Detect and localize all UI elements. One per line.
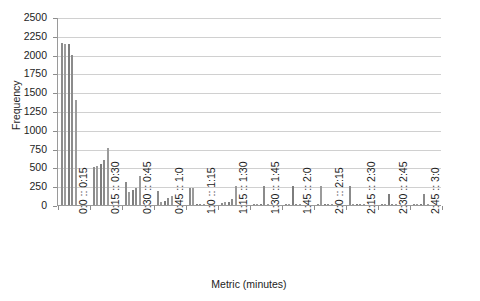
gridline: [58, 93, 441, 94]
bar: [288, 204, 290, 205]
y-tick-label: 500: [5, 161, 47, 173]
gridline: [58, 56, 441, 57]
x-tick-label: 0:0 :: 0:15: [77, 167, 89, 214]
bar: [132, 190, 134, 205]
y-tick-label: 1000: [5, 124, 47, 136]
bar: [96, 166, 98, 205]
y-tick-label: 250: [5, 180, 47, 192]
gridline: [58, 112, 441, 113]
chart-container: Frequency 025050075010001250150017502000…: [0, 0, 480, 301]
x-tick-label: 2:0 :: 2:15: [333, 167, 345, 214]
bar: [381, 204, 383, 205]
x-tick-mark: [218, 206, 219, 210]
x-tick-mark: [154, 206, 155, 210]
bar: [68, 44, 70, 205]
bar: [416, 204, 418, 205]
bar: [135, 188, 137, 205]
x-tick-label: 2:45 :: 3:0: [429, 167, 441, 214]
bar: [260, 204, 262, 205]
bar: [125, 182, 127, 205]
bar: [317, 204, 319, 205]
bar: [423, 194, 425, 205]
x-tick-mark: [58, 206, 59, 210]
bar: [388, 194, 390, 205]
bar: [199, 204, 201, 205]
bar: [327, 204, 329, 205]
bar: [285, 204, 287, 205]
bar: [295, 204, 297, 205]
bar: [160, 202, 162, 205]
bar: [224, 202, 226, 205]
x-tick-mark: [250, 206, 251, 210]
y-tick-label: 0: [5, 199, 47, 211]
y-tick-label: 1750: [5, 67, 47, 79]
x-tick-label: 1:0 :: 1:15: [205, 167, 217, 214]
bar: [359, 204, 361, 205]
y-tick-label: 750: [5, 143, 47, 155]
bar: [356, 204, 358, 205]
x-tick-label: 2:15 :: 2:30: [365, 161, 377, 214]
bar: [196, 204, 198, 205]
bar: [228, 202, 230, 205]
bar: [128, 192, 130, 205]
x-axis-labels: 0:0 :: 0:150:15 :: 0:300:30 :: 0:450:45 …: [57, 212, 441, 274]
bar: [192, 188, 194, 205]
x-tick-mark: [378, 206, 379, 210]
bar: [324, 204, 326, 205]
bar: [420, 204, 422, 205]
x-tick-mark: [186, 206, 187, 210]
x-tick-mark: [90, 206, 91, 210]
bar: [391, 204, 393, 205]
y-tick-mark: [53, 206, 57, 207]
bar: [71, 55, 73, 205]
x-tick-label: 1:15 :: 1:30: [237, 161, 249, 214]
x-tick-mark: [314, 206, 315, 210]
x-tick-label: 0:45 :: 1:0: [173, 167, 185, 214]
bar: [221, 203, 223, 205]
bar: [263, 186, 265, 205]
bar: [103, 160, 105, 205]
bar: [292, 186, 294, 205]
x-tick-label: 2:30 :: 2:45: [397, 161, 409, 214]
x-tick-label: 1:30 :: 1:45: [269, 161, 281, 214]
y-tick-label: 1500: [5, 86, 47, 98]
y-tick-label: 2000: [5, 49, 47, 61]
x-tick-label: 1:45 :: 2:0: [301, 167, 313, 214]
x-tick-mark: [282, 206, 283, 210]
bar: [384, 204, 386, 205]
x-tick-mark: [442, 206, 443, 210]
x-tick-label: 0:30 :: 0:45: [141, 161, 153, 214]
bar: [231, 199, 233, 205]
y-tick-label: 2500: [5, 11, 47, 23]
y-tick-label: 2250: [5, 30, 47, 42]
gridline: [58, 150, 441, 151]
gridline: [58, 18, 441, 19]
x-axis-title: Metric (minutes): [57, 278, 441, 290]
bar: [157, 191, 159, 205]
gridline: [58, 74, 441, 75]
x-tick-mark: [122, 206, 123, 210]
bar: [349, 186, 351, 205]
bar: [100, 164, 102, 205]
bar: [93, 167, 95, 205]
bar: [167, 198, 169, 205]
bar: [320, 186, 322, 205]
gridline: [58, 37, 441, 38]
bar: [189, 188, 191, 205]
x-tick-mark: [346, 206, 347, 210]
gridline: [58, 131, 441, 132]
bar: [413, 204, 415, 205]
bar: [256, 204, 258, 205]
bar: [164, 201, 166, 205]
bar: [352, 204, 354, 205]
bar: [64, 44, 66, 205]
bar: [253, 204, 255, 205]
x-tick-label: 0:15 :: 0:30: [109, 161, 121, 214]
bar: [61, 43, 63, 205]
y-tick-label: 1250: [5, 105, 47, 117]
x-tick-mark: [410, 206, 411, 210]
